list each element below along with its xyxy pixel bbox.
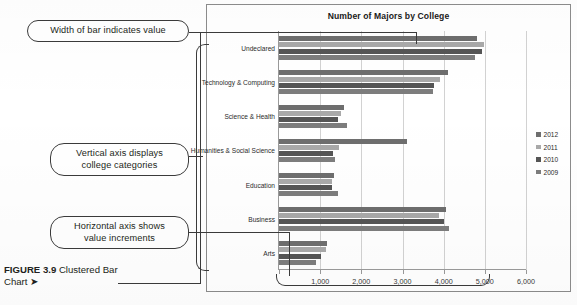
chart-legend: 2012201120102009 — [536, 131, 558, 181]
bar — [279, 49, 482, 54]
bar — [279, 219, 444, 224]
bar-group: Undeclared — [279, 31, 526, 65]
bar-group: Arts — [279, 236, 526, 270]
bar — [279, 151, 333, 156]
bar — [279, 70, 448, 75]
callout-vertical-axis-line1: Vertical axis displays — [76, 148, 163, 158]
bar-group: Business — [279, 202, 526, 236]
bar-group: Education — [279, 168, 526, 202]
figure-number: FIGURE 3.9 — [4, 264, 56, 275]
bar — [279, 241, 327, 246]
leader-line-haxis-vertical — [289, 232, 290, 276]
legend-label: 2011 — [544, 144, 558, 151]
bar — [279, 179, 332, 184]
bar — [279, 226, 449, 231]
category-label: Business — [248, 215, 275, 222]
caption-arrow-icon: ➤ — [30, 276, 38, 287]
bar — [279, 83, 434, 88]
callout-horizontal-axis-line2: value increments — [84, 233, 155, 243]
bar — [279, 173, 334, 178]
category-label: Undeclared — [241, 45, 275, 52]
chart-frame: Number of Majors by College 1,0002,0003,… — [206, 4, 571, 292]
bar — [279, 260, 316, 265]
leader-line-width-horizontal — [189, 32, 417, 33]
bar — [279, 55, 475, 60]
legend-item[interactable]: 2011 — [536, 144, 558, 151]
bar — [279, 247, 326, 252]
bar — [279, 111, 341, 116]
x-tick-label-6000: 6,000 — [517, 277, 535, 286]
bar-group: Humanities & Social Science — [279, 133, 526, 167]
bar — [279, 213, 439, 218]
bar — [279, 117, 338, 122]
bar — [279, 139, 407, 144]
bar — [279, 207, 446, 212]
plot-area: 1,0002,0003,0004,0005,0006,000 Undeclare… — [278, 31, 526, 270]
callout-width-of-bar: Width of bar indicates value — [27, 20, 189, 42]
gridline-6000 — [526, 31, 527, 270]
legend-swatch-icon — [536, 157, 541, 162]
bar — [279, 185, 332, 190]
bar-group: Technology & Computing — [279, 65, 526, 99]
callout-width-text: Width of bar indicates value — [50, 25, 166, 35]
bar — [279, 191, 338, 196]
leader-line-caption-vertical — [200, 32, 201, 283]
legend-item[interactable]: 2010 — [536, 156, 558, 163]
callout-vertical-axis-line2: college categories — [82, 160, 158, 170]
bar — [279, 123, 347, 128]
bar — [279, 254, 321, 259]
figure-caption: FIGURE 3.9 Clustered Bar Chart ➤ — [4, 264, 122, 288]
category-label: Arts — [263, 249, 275, 256]
legend-swatch-icon — [536, 145, 541, 150]
legend-item[interactable]: 2012 — [536, 131, 558, 138]
bar — [279, 105, 344, 110]
bar — [279, 42, 484, 47]
chart-title: Number of Majors by College — [207, 11, 570, 21]
leader-line-width-vertical — [416, 32, 417, 44]
legend-swatch-icon — [536, 170, 541, 175]
x-tick-6000 — [526, 270, 527, 274]
legend-label: 2010 — [544, 156, 559, 163]
leader-line-caption-horizontal — [118, 283, 201, 284]
bar — [279, 89, 433, 94]
legend-swatch-icon — [536, 132, 541, 137]
bar — [279, 36, 477, 41]
leader-line-haxis-horizontal — [189, 232, 290, 233]
callout-horizontal-axis-line1: Horizontal axis shows — [74, 221, 165, 231]
callout-vertical-axis: Vertical axis displays college categorie… — [50, 143, 189, 176]
bar — [279, 77, 440, 82]
bar-group: Science & Health — [279, 99, 526, 133]
legend-label: 2009 — [544, 169, 559, 176]
callout-horizontal-axis: Horizontal axis shows value increments — [50, 216, 189, 249]
category-label: Technology & Computing — [202, 79, 275, 86]
legend-label: 2012 — [544, 131, 559, 138]
category-label: Education — [246, 181, 275, 188]
bar — [279, 145, 339, 150]
bracket-horizontal-axis — [276, 274, 490, 286]
category-label: Science & Health — [224, 113, 275, 120]
legend-item[interactable]: 2009 — [536, 169, 558, 176]
bar — [279, 157, 335, 162]
bracket-vertical-axis — [196, 44, 209, 271]
